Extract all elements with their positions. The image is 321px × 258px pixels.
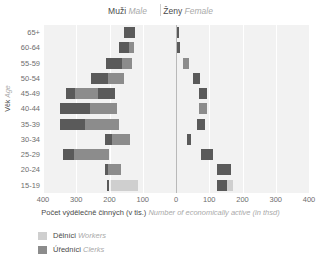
bar-segment[interactable] [119,42,129,53]
x-tick-label: 400 [25,195,61,204]
bar-segment[interactable] [217,180,227,191]
x-tick-label: 400 [291,195,321,204]
x-tick-label: 100 [125,195,161,204]
legend-label-cz: Dělníci [53,231,76,240]
stacked-bar[interactable] [106,58,132,69]
bar-segment[interactable] [177,42,180,53]
x-axis-tick-labels: 4003002001000100200300400 [43,195,309,205]
y-tick-label: 30-34 [0,132,40,147]
y-tick-label: 25-29 [0,147,40,162]
x-tick-label: 0 [158,195,194,204]
female-label-cz: Ženy [163,6,182,16]
x-axis-title: Počet výdělečně činných (v tis.) Number … [0,208,321,217]
y-tick-label: 35-39 [0,117,40,132]
x-tick-label: 200 [92,195,128,204]
stacked-bar[interactable] [183,58,188,69]
y-axis-tick-labels: 65+60-6455-5950-5445-4940-4435-3930-3425… [0,25,40,193]
bar-segment[interactable] [177,27,180,38]
bar-segment[interactable] [85,119,119,130]
bar-segment[interactable] [111,180,138,191]
x-tick-label: 100 [191,195,227,204]
header-separator [160,4,161,16]
bar-segment[interactable] [112,134,129,145]
stacked-bar[interactable] [177,42,180,53]
pyramid-row [43,147,309,162]
bar-segment[interactable] [187,134,191,145]
stacked-bar[interactable] [60,103,117,114]
pyramid-row [43,101,309,116]
female-header: Ženy Female [163,6,213,16]
y-tick-label: 40-44 [0,101,40,116]
legend-label: Úředníci Clerks [53,245,104,254]
bar-segment[interactable] [60,103,89,114]
y-tick-label: 15-19 [0,178,40,193]
bar-segment[interactable] [75,88,98,99]
bar-segment[interactable] [227,180,233,191]
stacked-bar[interactable] [66,88,115,99]
y-tick-label: 65+ [0,25,40,40]
bar-segment[interactable] [108,73,125,84]
bar-segment[interactable] [193,73,200,84]
male-label-cz: Muži [108,6,126,16]
bar-segment[interactable] [199,103,207,114]
stacked-bar[interactable] [105,134,130,145]
y-tick-label: 20-24 [0,162,40,177]
stacked-bar[interactable] [199,88,206,99]
x-tick-label: 300 [258,195,294,204]
bar-segment[interactable] [106,58,122,69]
stacked-bar[interactable] [197,119,206,130]
stacked-bar[interactable] [193,73,200,84]
bar-segment[interactable] [108,164,121,175]
stacked-bar[interactable] [107,180,138,191]
legend-label-en: Workers [76,231,106,240]
bar-segment[interactable] [129,42,134,53]
pyramid-row [43,71,309,86]
y-tick-label: 50-54 [0,71,40,86]
bar-segment[interactable] [217,164,232,175]
stacked-bar[interactable] [124,27,135,38]
legend-label-en: Clerks [81,245,104,254]
stacked-bar[interactable] [217,164,232,175]
bar-segment[interactable] [90,103,118,114]
bar-segment[interactable] [63,149,74,160]
stacked-bar[interactable] [187,134,191,145]
bar-segment[interactable] [183,58,188,69]
bar-segment[interactable] [105,134,113,145]
stacked-bar[interactable] [91,73,124,84]
stacked-bar[interactable] [199,103,207,114]
pyramid-row [43,56,309,71]
bar-segment[interactable] [124,27,135,38]
x-axis-title-en: Number of economically active (in thsd) [148,208,279,217]
y-tick-label: 60-64 [0,40,40,55]
bar-segment[interactable] [201,149,214,160]
bar-segment[interactable] [122,58,132,69]
male-header: Muži Male [108,6,147,16]
stacked-bar[interactable] [63,149,109,160]
legend-label-cz: Úředníci [53,245,81,254]
x-axis-title-cz: Počet výdělečně činných (v tis.) [41,208,146,217]
bar-segment[interactable] [60,119,85,130]
stacked-bar[interactable] [201,149,214,160]
pyramid-row [43,117,309,132]
bar-segment[interactable] [91,73,108,84]
stacked-bar[interactable] [60,119,119,130]
chart-legend: Dělníci WorkersÚředníci Clerks [38,230,321,258]
stacked-bar[interactable] [119,42,134,53]
stacked-bar[interactable] [177,27,180,38]
plot-area [43,25,309,193]
bar-segment[interactable] [197,119,206,130]
bar-segment[interactable] [98,88,115,99]
y-tick-label: 45-49 [0,86,40,101]
legend-item[interactable]: Úředníci Clerks [38,244,321,255]
x-tick-label: 300 [58,195,94,204]
legend-item[interactable]: Dělníci Workers [38,230,321,241]
stacked-bar[interactable] [105,164,122,175]
stacked-bar[interactable] [217,180,233,191]
bar-segment[interactable] [66,88,75,99]
legend-swatch [38,246,47,254]
male-label-en: Male [128,6,146,16]
pyramid-row [43,25,309,40]
bar-segment[interactable] [74,149,109,160]
bar-segment[interactable] [199,88,206,99]
